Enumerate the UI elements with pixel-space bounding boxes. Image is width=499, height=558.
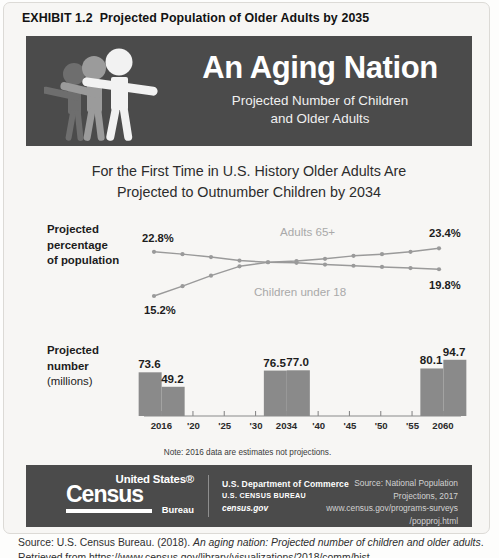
bar-chart: 2016'20'25'302034'40'45'50'55206073.649.… (132, 338, 477, 443)
bar-tick-label: '40 (312, 420, 325, 431)
footer-source-line1: Source: National Population (272, 477, 458, 490)
bar-tick-label: 2016 (151, 420, 172, 431)
citation: Source: U.S. Census Bureau. (2018). An a… (18, 536, 488, 558)
citation-title: An aging nation: Projected number of chi… (193, 537, 481, 548)
children-series-label: Children under 18 (254, 285, 346, 298)
number-axis-label-line3: (millions) (47, 374, 142, 390)
hero-banner: An Aging Nation Projected Number of Chil… (26, 36, 472, 146)
children-start-label: 15.2% (144, 304, 176, 316)
line-data-point (323, 263, 327, 267)
hero-subtitle-line2: and Older Adults (174, 110, 466, 128)
number-axis-label-line1: Projected (47, 343, 142, 359)
footer-source-line3[interactable]: www.census.gov/programs-surveys (272, 502, 458, 515)
headline-line1: For the First Time in U.S. History Older… (46, 161, 452, 182)
percentage-axis-label: Projected percentage of population (47, 222, 142, 269)
line-chart: 22.8% 23.4% 15.2% 19.8% Adults 65+ Child… (132, 213, 477, 323)
bar-tick-label: 2060 (432, 420, 453, 431)
headline: For the First Time in U.S. History Older… (46, 161, 452, 202)
logo-census: Census (66, 483, 143, 506)
bar-value-label: 80.1 (420, 353, 443, 366)
line-data-point (152, 250, 156, 254)
line-data-point (437, 246, 441, 250)
bar-value-label: 49.2 (161, 372, 184, 385)
bar-tick-label: 2034 (276, 420, 297, 431)
bar-tick-label: '45 (343, 420, 356, 431)
bar-value-label: 94.7 (443, 345, 466, 358)
hero-subtitle: Projected Number of Children and Older A… (174, 92, 466, 128)
line-data-point (380, 252, 384, 256)
logo-bureau: Bureau (162, 504, 194, 515)
line-data-point (380, 265, 384, 269)
hero-subtitle-line1: Projected Number of Children (174, 92, 466, 110)
line-data-point (437, 267, 441, 271)
footer-band: United States® Census Bureau U.S. Depart… (26, 465, 472, 527)
number-axis-label: Projected number (millions) (47, 343, 142, 390)
line-data-point (180, 284, 184, 288)
percentage-axis-label-line1: Projected (47, 222, 142, 238)
bar-rect (420, 368, 443, 416)
hero-title: An Aging Nation (174, 52, 466, 83)
exhibit-page: EXHIBIT 1.2Projected Population of Older… (0, 0, 499, 558)
exhibit-number: EXHIBIT 1.2 (22, 11, 93, 25)
exhibit-caption: EXHIBIT 1.2Projected Population of Older… (22, 11, 369, 25)
line-data-point (209, 255, 213, 259)
line-data-point (294, 259, 298, 263)
line-data-point (209, 274, 213, 278)
adults-start-label: 22.8% (142, 232, 174, 244)
line-data-point (237, 264, 241, 268)
line-data-point (351, 254, 355, 258)
bar-rect (264, 371, 287, 416)
aging-people-icon (44, 44, 172, 141)
exhibit-card: EXHIBIT 1.2Projected Population of Older… (3, 2, 490, 534)
bar-rect (443, 360, 466, 416)
line-data-point (323, 257, 327, 261)
line-data-point (408, 266, 412, 270)
bar-tick-label: '25 (218, 420, 231, 431)
adults-end-label: 23.4% (429, 227, 461, 239)
logo-rule (66, 509, 152, 513)
chart-note: Note: 2016 data are estimates not projec… (4, 448, 491, 457)
bar-rect (162, 387, 185, 416)
percentage-axis-label-line3: of population (47, 253, 142, 269)
bar-value-label: 73.6 (138, 357, 161, 370)
bar-rect (287, 370, 310, 416)
line-data-point (266, 260, 270, 264)
number-axis-label-line2: number (47, 359, 142, 375)
census-bureau-logo: United States® Census Bureau (66, 473, 194, 519)
citation-prefix: Source: U.S. Census Bureau. (2018). (18, 537, 193, 548)
footer-source-line4[interactable]: /popproj.html (272, 515, 458, 527)
headline-line2: Projected to Outnumber Children by 2034 (46, 182, 452, 203)
bar-rect (139, 372, 162, 416)
children-end-label: 19.8% (429, 279, 461, 291)
bar-value-label: 76.5 (263, 356, 286, 369)
bar-value-label: 77.0 (286, 355, 309, 368)
bar-tick-label: '50 (375, 420, 388, 431)
line-data-point (237, 258, 241, 262)
bar-tick-label: '55 (406, 420, 419, 431)
footer-source-line2: Projections, 2017 (272, 490, 458, 503)
line-data-point (408, 250, 412, 254)
footer-source: Source: National Population Projections,… (272, 477, 458, 527)
bar-tick-label: '30 (250, 420, 263, 431)
percentage-axis-label-line2: percentage (47, 238, 142, 254)
exhibit-title: Projected Population of Older Adults by … (100, 11, 370, 25)
footer-divider (208, 475, 209, 517)
bar-tick-label: '20 (187, 420, 200, 431)
line-data-point (180, 252, 184, 256)
line-data-point (351, 264, 355, 268)
line-data-point (152, 294, 156, 298)
adults-series-label: Adults 65+ (280, 225, 335, 238)
